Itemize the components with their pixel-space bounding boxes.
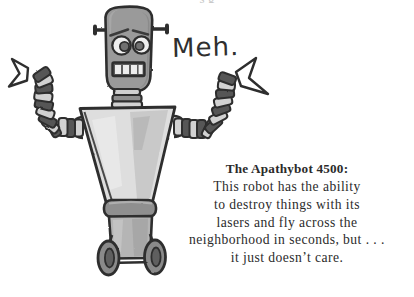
belt: [104, 200, 156, 217]
wheel-left: [98, 241, 119, 275]
eye-left: [112, 36, 130, 54]
caption-line-2: to destroy things with its: [162, 196, 412, 214]
eye-right: [133, 36, 150, 53]
illustration-page: s g: [0, 0, 414, 297]
caption-block: The Apathybot 4500: This robot has the a…: [162, 160, 412, 267]
caption-line-1: This robot has the ability: [162, 178, 412, 196]
arm-left: [32, 66, 83, 138]
caption-line-3: lasers and fly across the: [162, 214, 412, 232]
torso: [80, 107, 175, 206]
mouth-grid: [113, 63, 145, 77]
caption-title: The Apathybot 4500:: [162, 160, 412, 177]
arm-right: [174, 72, 237, 140]
caption-line-4: neighborhood in seconds, but . . .: [162, 231, 412, 249]
claw-right: [236, 58, 268, 94]
claw-left: [9, 59, 28, 87]
speech-text-meh: Meh.: [172, 31, 240, 63]
caption-line-5: it just doesn’t care.: [162, 249, 412, 267]
